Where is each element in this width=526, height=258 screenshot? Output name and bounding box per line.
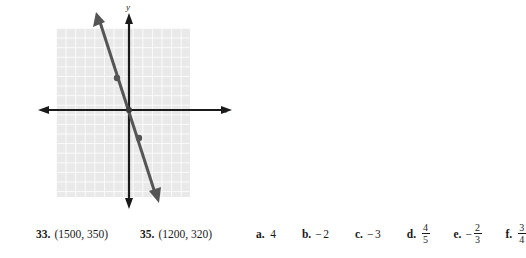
problem-35-number: 35. [140, 228, 154, 240]
choice-c-number: 3 [375, 228, 381, 240]
problem-33: 33. (1500, 350) [36, 228, 108, 240]
x-axis-label: x [223, 105, 227, 115]
choice-e-letter: e. [454, 228, 462, 240]
choice-d[interactable]: d. 4 5 [407, 223, 430, 245]
choice-e[interactable]: e. − 2 3 [454, 223, 482, 245]
problem-35-value: (1200, 320) [158, 228, 212, 240]
choice-f-letter: f. [506, 228, 513, 240]
choice-e-denominator: 3 [474, 234, 481, 245]
choice-a-value: 4 [269, 228, 276, 240]
choice-c-value: − 3 [367, 228, 381, 240]
choice-e-value: − 2 3 [466, 223, 482, 245]
graph-axes-and-line [30, 0, 240, 215]
choice-b-letter: b. [302, 228, 311, 240]
line-point-upper [114, 75, 120, 81]
choice-f-numerator: 3 [518, 223, 525, 234]
choice-e-sign: − [466, 228, 473, 240]
choice-c-sign: − [367, 228, 374, 240]
choice-d-letter: d. [407, 228, 416, 240]
choice-d-fraction: 4 5 [422, 223, 430, 245]
problem-33-number: 33. [36, 228, 50, 240]
choice-b-number: 2 [323, 228, 329, 240]
line-origin-point [126, 107, 132, 113]
plotted-line [93, 12, 161, 203]
choice-a[interactable]: a. 4 [256, 228, 276, 240]
choice-b-value: − 2 [315, 228, 329, 240]
choice-e-fraction: 2 3 [474, 223, 482, 245]
problem-33-value: (1500, 350) [54, 228, 108, 240]
choice-f[interactable]: f. 3 4 [506, 223, 526, 245]
choice-f-denominator: 4 [518, 234, 525, 245]
y-axis-label: y [126, 2, 130, 12]
choice-e-numerator: 2 [474, 223, 481, 234]
line-point-lower [136, 135, 142, 141]
choice-a-number: 4 [270, 228, 276, 240]
choice-c-letter: c. [355, 228, 363, 240]
problem-35: 35. (1200, 320) [140, 228, 212, 240]
choice-f-fraction: 3 4 [518, 223, 526, 245]
choice-c[interactable]: c. − 3 [355, 228, 381, 240]
answers-row: 33. (1500, 350) 35. (1200, 320) a. 4 b. … [0, 218, 524, 250]
choice-d-denominator: 5 [422, 234, 429, 245]
choice-b[interactable]: b. − 2 [302, 228, 329, 240]
choice-d-numerator: 4 [422, 223, 429, 234]
choice-f-value: 3 4 [516, 223, 526, 245]
coordinate-graph-figure: y x [30, 0, 240, 215]
x-axis [38, 106, 232, 114]
choice-d-value: 4 5 [420, 223, 430, 245]
choice-b-sign: − [315, 228, 322, 240]
choice-a-letter: a. [256, 228, 265, 240]
